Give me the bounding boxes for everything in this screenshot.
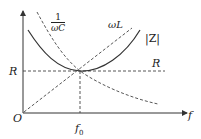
resistance-label-right: R (152, 58, 160, 69)
inductive-reactance-label: ωL (108, 20, 123, 30)
fraction-numerator: 1 (51, 13, 65, 23)
subscript-zero: 0 (79, 129, 83, 137)
y-tick-r-label: R (9, 66, 17, 77)
inductive-reactance-curve (24, 28, 132, 112)
fraction-denominator: ωC (51, 23, 65, 33)
origin-label: O (13, 113, 22, 124)
diagram-canvas (0, 0, 201, 139)
impedance-label: |Z| (145, 33, 160, 44)
x-axis-label: f (188, 110, 192, 121)
resonance-frequency-label: f0 (75, 123, 84, 137)
capacitive-reactance-label: 1 ωC (51, 13, 65, 33)
resonance-diagram: 1 ωC ωL |Z| R R O f f0 (0, 0, 201, 139)
